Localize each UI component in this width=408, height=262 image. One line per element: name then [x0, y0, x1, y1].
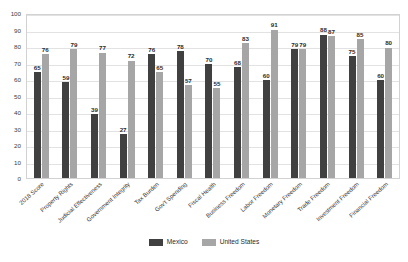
bar-slot: 76 — [42, 15, 49, 178]
bar-slot: 79 — [291, 15, 298, 178]
bar-group: 7585 — [342, 15, 371, 178]
bar-slot: 76 — [148, 15, 155, 178]
bar-mexico[interactable]: 68 — [234, 67, 241, 178]
x-axis-slot: Gov't Spending — [170, 180, 199, 232]
bar-group: 6091 — [256, 15, 285, 178]
bar-value-label: 79 — [299, 42, 306, 48]
bar-slot: 70 — [205, 15, 212, 178]
bar-group: 8887 — [313, 15, 342, 178]
bar-value-label: 80 — [385, 40, 392, 46]
bar-mexico[interactable]: 60 — [263, 80, 270, 178]
bar-value-label: 79 — [291, 42, 298, 48]
bar-mexico[interactable]: 70 — [205, 64, 212, 178]
bar-value-label: 70 — [206, 57, 213, 63]
bar-united-states[interactable]: 79 — [299, 49, 306, 178]
bar-value-label: 79 — [70, 42, 77, 48]
bar-group: 5979 — [56, 15, 85, 178]
bar-slot: 91 — [271, 15, 278, 178]
bar-mexico[interactable]: 65 — [34, 72, 41, 178]
y-axis-tick: 60 — [14, 77, 21, 83]
y-axis-tick: 90 — [14, 27, 21, 33]
bar-slot: 79 — [299, 15, 306, 178]
bar-mexico[interactable]: 39 — [91, 114, 98, 178]
legend-label: Mexico — [167, 239, 188, 246]
bar-chart: 0102030405060708090100 65765979397727727… — [0, 0, 408, 262]
bar-slot: 59 — [62, 15, 69, 178]
bar-slot: 88 — [320, 15, 327, 178]
legend-swatch — [202, 239, 216, 246]
bar-value-label: 76 — [42, 47, 49, 53]
bar-value-label: 65 — [156, 65, 163, 71]
y-axis-tick: 40 — [14, 110, 21, 116]
bar-value-label: 39 — [91, 107, 98, 113]
bar-mexico[interactable]: 88 — [320, 35, 327, 178]
bar-united-states[interactable]: 87 — [328, 36, 335, 178]
y-axis-tick: 70 — [14, 60, 21, 66]
bar-united-states[interactable]: 76 — [42, 54, 49, 178]
bar-mexico[interactable]: 59 — [62, 82, 69, 178]
bar-group: 7055 — [199, 15, 228, 178]
legend-label: United States — [220, 239, 260, 246]
y-axis-tick: 10 — [14, 159, 21, 165]
y-axis-tick: 50 — [14, 93, 21, 99]
bar-value-label: 68 — [234, 60, 241, 66]
bar-value-label: 77 — [99, 45, 106, 51]
bar-slot: 80 — [385, 15, 392, 178]
bar-group: 6080 — [370, 15, 399, 178]
bar-united-states[interactable]: 79 — [70, 49, 77, 178]
bar-slot: 57 — [185, 15, 192, 178]
bar-slot: 77 — [99, 15, 106, 178]
bar-mexico[interactable]: 78 — [177, 51, 184, 178]
bar-slot: 85 — [357, 15, 364, 178]
chart-legend: MexicoUnited States — [0, 239, 408, 246]
bar-group: 7665 — [141, 15, 170, 178]
bar-united-states[interactable]: 77 — [99, 53, 106, 179]
y-axis: 0102030405060708090100 — [0, 14, 24, 179]
bar-value-label: 55 — [214, 81, 221, 87]
bar-slot: 39 — [91, 15, 98, 178]
bar-slot: 75 — [349, 15, 356, 178]
bar-united-states[interactable]: 55 — [213, 88, 220, 178]
y-axis-tick: 100 — [11, 11, 21, 17]
legend-item-mx[interactable]: Mexico — [149, 239, 188, 246]
bar-mexico[interactable]: 76 — [148, 54, 155, 178]
bar-slot: 65 — [156, 15, 163, 178]
bar-group: 7979 — [284, 15, 313, 178]
bar-united-states[interactable]: 83 — [242, 43, 249, 178]
bar-group: 6576 — [27, 15, 56, 178]
bar-slot: 60 — [263, 15, 270, 178]
bar-slot: 78 — [177, 15, 184, 178]
bar-united-states[interactable]: 65 — [156, 72, 163, 178]
bar-value-label: 91 — [271, 22, 278, 28]
bar-value-label: 85 — [357, 32, 364, 38]
bar-value-label: 72 — [128, 53, 135, 59]
bar-group: 3977 — [84, 15, 113, 178]
y-axis-tick: 80 — [14, 44, 21, 50]
bar-united-states[interactable]: 91 — [271, 30, 278, 178]
bar-slot: 65 — [34, 15, 41, 178]
bar-mexico[interactable]: 60 — [377, 80, 384, 178]
bar-united-states[interactable]: 80 — [385, 48, 392, 178]
bar-mexico[interactable]: 27 — [120, 134, 127, 178]
bar-value-label: 83 — [242, 36, 249, 42]
bar-value-label: 88 — [320, 27, 327, 33]
y-axis-tick: 0 — [18, 176, 21, 182]
bar-value-label: 87 — [328, 29, 335, 35]
bar-mexico[interactable]: 79 — [291, 49, 298, 178]
bar-slot: 72 — [128, 15, 135, 178]
legend-item-us[interactable]: United States — [202, 239, 260, 246]
bar-group: 6883 — [227, 15, 256, 178]
bar-slot: 79 — [70, 15, 77, 178]
bar-slot: 68 — [234, 15, 241, 178]
bar-united-states[interactable]: 72 — [128, 61, 135, 178]
bar-mexico[interactable]: 75 — [349, 56, 356, 178]
bars-layer: 6576597939772772766578577055688360917979… — [27, 15, 399, 178]
bar-slot: 87 — [328, 15, 335, 178]
y-axis-tick: 30 — [14, 126, 21, 132]
bar-value-label: 57 — [185, 78, 192, 84]
bar-value-label: 78 — [177, 44, 184, 50]
x-axis-tick-label: 2018 Score — [18, 181, 45, 206]
bar-united-states[interactable]: 85 — [357, 39, 364, 178]
bar-united-states[interactable]: 57 — [185, 85, 192, 178]
x-axis-slot: Financial Freedom — [370, 180, 399, 232]
